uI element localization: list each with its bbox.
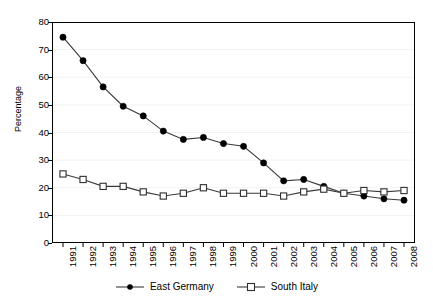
- y-tick-label: 20: [27, 183, 49, 192]
- y-tick-label: 40: [27, 128, 49, 137]
- legend-label-east-germany: East Germany: [150, 281, 214, 292]
- legend-label-south-italy: South Italy: [271, 281, 318, 292]
- plot-svg: [52, 22, 415, 248]
- line-chart: Percentage 80706050403020100 19911992199…: [0, 0, 433, 305]
- filled-circle-icon: [115, 282, 145, 292]
- y-tick-label: 30: [27, 155, 49, 164]
- legend-item-south-italy: South Italy: [236, 281, 318, 292]
- open-square-icon: [236, 282, 266, 292]
- y-axis-tick-labels: 80706050403020100: [25, 0, 49, 305]
- chart-legend: East Germany South Italy: [0, 281, 433, 292]
- y-tick-label: 80: [27, 17, 49, 26]
- y-tick-label: 70: [27, 45, 49, 54]
- y-axis-title: Percentage: [13, 64, 23, 154]
- y-tick-label: 10: [27, 210, 49, 219]
- y-tick-label: 60: [27, 72, 49, 81]
- plot-area: [52, 22, 415, 243]
- y-tick-label: 50: [27, 100, 49, 109]
- y-tick-label: 0: [27, 238, 49, 247]
- legend-item-east-germany: East Germany: [115, 281, 214, 292]
- series-east-germany: [60, 34, 407, 203]
